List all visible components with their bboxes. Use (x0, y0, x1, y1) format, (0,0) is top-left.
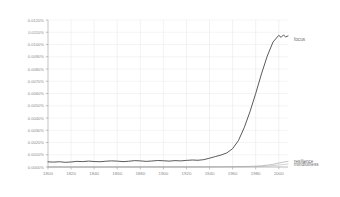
y-axis-tick-label: 0.0060% (28, 91, 45, 96)
x-axis-tick-label: 2000 (274, 171, 284, 176)
y-axis-tick-label: 0.0070% (28, 79, 45, 84)
ngram-chart-container: 0.0000%0.0010%0.0020%0.0030%0.0040%0.005… (0, 0, 340, 197)
y-axis-tick-label: 0.0040% (28, 116, 45, 121)
y-axis-tick-label: 0.0080% (28, 67, 45, 72)
x-axis-tick-label: 1960 (228, 171, 238, 176)
y-axis-tick-label: 0.0020% (28, 140, 45, 145)
y-axis-tick-label: 0.0090% (28, 54, 45, 59)
series-label-focus[interactable]: focus (294, 37, 306, 42)
y-axis-tick-label: 0.0010% (28, 152, 45, 157)
x-axis-tick-label: 1880 (135, 171, 145, 176)
y-axis-tick-label: 0.0050% (28, 103, 45, 108)
y-axis-tick-label: 0.0000% (28, 165, 45, 170)
x-axis-tick-label: 1920 (182, 171, 192, 176)
series-line-mindfulness[interactable] (48, 164, 288, 167)
x-axis-tick-label: 1980 (251, 171, 261, 176)
x-axis-tick-label: 1800 (43, 171, 53, 176)
x-axis-tick-label: 1940 (205, 171, 215, 176)
series-line-resilience[interactable] (48, 161, 288, 167)
y-axis-tick-label: 0.0120% (28, 18, 45, 23)
x-axis-tick-label: 1820 (66, 171, 76, 176)
x-axis-tick-label: 1900 (158, 171, 168, 176)
x-axis-tick-label: 1860 (112, 171, 122, 176)
y-axis-tick-label: 0.0110% (28, 30, 44, 35)
ngram-line-chart: 0.0000%0.0010%0.0020%0.0030%0.0040%0.005… (0, 0, 340, 197)
y-axis-tick-label: 0.0030% (28, 128, 45, 133)
series-line-focus[interactable] (48, 35, 288, 162)
x-axis-tick-label: 1840 (89, 171, 99, 176)
y-axis-tick-label: 0.0100% (28, 42, 45, 47)
series-label-mindfulness[interactable]: mindfulness (294, 162, 319, 167)
